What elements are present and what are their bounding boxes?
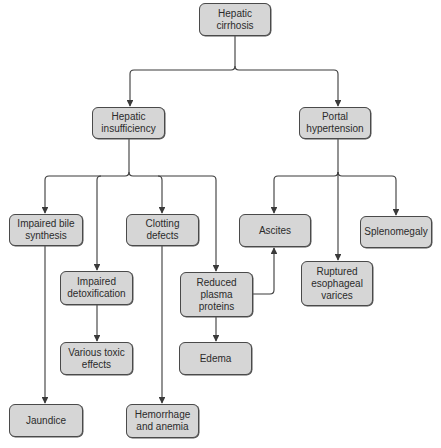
node-label: Impaired bile synthesis <box>17 218 74 242</box>
node-label: Ruptured esophageal varices <box>311 266 363 302</box>
node-label: Various toxic effects <box>68 347 125 371</box>
node-label: Splenomegaly <box>364 226 427 238</box>
node-label: Portal hypertension <box>306 111 363 135</box>
node-edema: Edema <box>179 342 252 375</box>
node-label: Hepatic insufficiency <box>101 111 155 135</box>
node-portal-hypertension: Portal hypertension <box>299 107 371 139</box>
node-label: Edema <box>200 353 232 365</box>
edge-insufficiency-detox <box>97 176 101 270</box>
node-label: Hemorrhage and anemia <box>135 409 191 433</box>
node-various-toxic-effects: Various toxic effects <box>60 342 133 375</box>
node-impaired-bile-synthesis: Impaired bile synthesis <box>9 214 83 246</box>
edge-portal-ascites <box>274 172 338 213</box>
edge-cirrhosis-portal <box>235 66 338 106</box>
node-ascites: Ascites <box>239 214 311 247</box>
node-splenomegaly: Splenomegaly <box>360 216 432 248</box>
node-label: Reduced plasma proteins <box>196 277 236 313</box>
node-label: Impaired detoxification <box>67 276 125 300</box>
node-hepatic-insufficiency: Hepatic insufficiency <box>92 107 165 139</box>
node-impaired-detoxification: Impaired detoxification <box>60 271 133 305</box>
edge-cirrhosis-insufficiency <box>130 36 235 106</box>
node-hemorrhage-and-anemia: Hemorrhage and anemia <box>126 404 199 438</box>
flowchart: Hepatic cirrhosis Hepatic insufficiency … <box>0 0 441 448</box>
node-reduced-plasma-proteins: Reduced plasma proteins <box>180 272 253 317</box>
node-label: Hepatic cirrhosis <box>216 8 253 32</box>
edge-portal-spleno <box>338 172 396 215</box>
node-ruptured-esophageal-varices: Ruptured esophageal varices <box>301 261 373 306</box>
node-label: Clotting defects <box>146 218 180 242</box>
edge-insufficiency-bile <box>45 172 129 213</box>
edge-plasma-ascites <box>253 248 274 294</box>
node-clotting-defects: Clotting defects <box>126 214 199 246</box>
node-label: Jaundice <box>26 415 66 427</box>
node-hepatic-cirrhosis: Hepatic cirrhosis <box>199 3 271 36</box>
node-label: Ascites <box>259 225 291 237</box>
node-jaundice: Jaundice <box>9 404 83 437</box>
edge-insufficiency-clotting <box>129 172 162 213</box>
